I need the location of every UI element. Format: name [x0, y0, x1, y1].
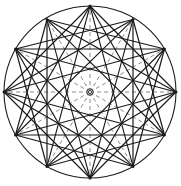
chord-v11-v3	[47, 20, 176, 92]
vertex-v11	[46, 18, 49, 21]
vertex-v3	[175, 91, 178, 94]
vertex-v2	[163, 48, 166, 51]
vertex-v6	[89, 177, 92, 180]
geometry-figure	[0, 0, 181, 186]
center-marker	[87, 89, 93, 95]
center-ring-outer	[87, 89, 93, 95]
vertex-v7	[46, 165, 49, 168]
vertex-v10	[14, 48, 17, 51]
chord-v5-v9	[4, 92, 133, 166]
chord-v2-v6	[90, 49, 164, 178]
vertex-v4	[163, 134, 166, 137]
vertex-v1	[132, 18, 135, 21]
chord-v9-v1	[4, 20, 133, 92]
chord-v3-v7	[47, 92, 176, 166]
vertex-v9	[3, 91, 6, 94]
vertex-v8	[14, 134, 17, 137]
vertex-v5	[132, 165, 135, 168]
vertex-v0	[89, 5, 92, 8]
chord-v6-v10	[16, 49, 90, 178]
geometry-canvas	[0, 0, 181, 186]
